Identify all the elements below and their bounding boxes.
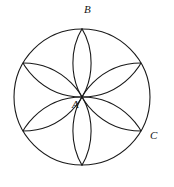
petal-arc-3 [14,97,150,187]
petal-arc-5 [0,0,91,131]
vertex-label-a: A [72,99,79,110]
geometric-figure: B A C [0,0,174,187]
petal-arc-group [0,0,174,187]
petal-arc-4 [0,63,91,187]
rosette-diagram [0,0,174,187]
vertex-label-b: B [84,4,91,15]
vertex-label-c: C [150,130,157,141]
